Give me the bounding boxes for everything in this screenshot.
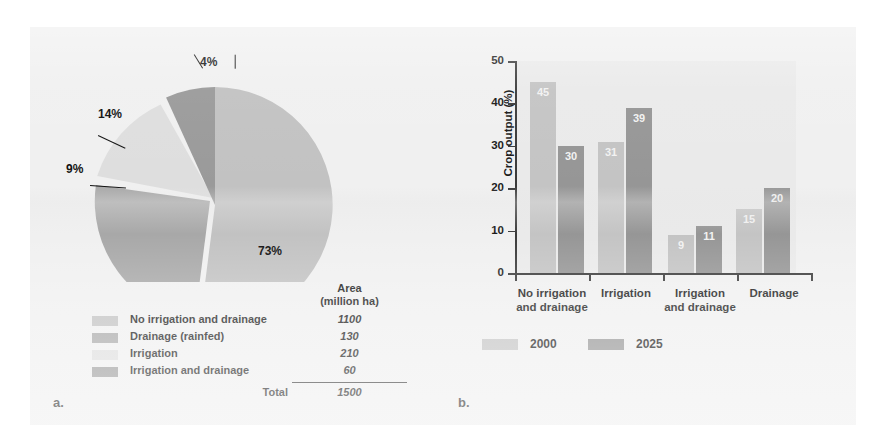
y-tick-label-50: 50 — [474, 54, 504, 66]
legend-label: Drainage (rainfed) — [130, 330, 224, 342]
pie-slice-drainage-rainfed — [95, 185, 210, 282]
legend-area-header-line1: Area — [337, 282, 361, 294]
y-tick-10 — [508, 231, 516, 233]
x-tick-3 — [737, 273, 739, 281]
panel-label-b: b. — [458, 395, 470, 410]
leader-line-4b — [234, 55, 235, 69]
bar-plot-area: 45 30 31 39 9 11 15 20 — [516, 61, 796, 273]
x-tick-1 — [589, 273, 591, 281]
legend-label: Irrigation and drainage — [130, 364, 249, 376]
x-category-drainage: Drainage — [714, 286, 834, 300]
bar-value: 20 — [764, 192, 790, 204]
legend-row: Drainage (rainfed) 130 — [92, 330, 422, 347]
pie-chart: 4% 14% 9% 73% — [50, 32, 410, 282]
legend-row: No irrigation and drainage 1100 — [92, 313, 422, 330]
bar-2000-no-irrigation-and-drainage: 45 — [530, 82, 556, 273]
legend-total-value: 1500 — [292, 386, 407, 398]
legend-total-row: Total 1500 — [92, 386, 422, 402]
bar-2000-drainage: 15 — [736, 209, 762, 273]
y-tick-label-20: 20 — [474, 181, 504, 193]
bar-2000-irrigation: 31 — [598, 142, 624, 273]
legend-label: No irrigation and drainage — [130, 313, 267, 325]
x-tick-4 — [811, 273, 813, 281]
legend-row: Irrigation 210 — [92, 347, 422, 364]
bar-value: 11 — [696, 230, 722, 242]
bar-value: 39 — [626, 112, 652, 124]
legend-total-divider — [292, 382, 407, 383]
legend-area-header: Area (million ha) — [292, 282, 407, 308]
bar-2000-irrigation-and-drainage: 9 — [668, 235, 694, 273]
legend-item-2025: 2025 — [588, 337, 708, 351]
pie-label-73-percent: 73% — [258, 244, 282, 258]
x-tick-0 — [515, 273, 517, 281]
x-category-line2: and drainage — [516, 301, 588, 313]
bar-2025-drainage: 20 — [764, 188, 790, 273]
y-tick-30 — [508, 146, 516, 148]
bar-value: 31 — [598, 146, 624, 158]
pie-label-4-percent: 4% — [200, 55, 217, 69]
legend-swatch-2000 — [482, 339, 518, 350]
panel-b-bar-chart: Crop output (%) 45 30 31 39 9 11 — [434, 27, 856, 425]
pie-label-9-percent: 9% — [66, 162, 83, 176]
legend-swatch-irrigation — [92, 350, 118, 360]
legend-label: Irrigation — [130, 347, 178, 359]
legend-item-2000: 2000 — [482, 337, 602, 351]
legend-label-2025: 2025 — [636, 337, 663, 351]
panel-label-a: a. — [53, 395, 64, 410]
x-tick-2 — [663, 273, 665, 281]
y-tick-50 — [508, 61, 516, 63]
x-category-line1: Drainage — [749, 287, 798, 299]
legend-value: 210 — [292, 347, 407, 359]
y-axis-line — [515, 61, 517, 275]
legend-swatch-no-irrigation-and-drainage — [92, 316, 118, 326]
legend-swatch-irrigation-and-drainage — [92, 367, 118, 377]
legend-swatch-drainage-rainfed — [92, 333, 118, 343]
bar-2025-irrigation: 39 — [626, 108, 652, 273]
legend-total-label: Total — [232, 386, 288, 398]
figure-panel: 4% 14% 9% 73% Area (million ha) No irrig… — [30, 27, 856, 425]
y-tick-label-30: 30 — [474, 139, 504, 151]
bar-2025-irrigation-and-drainage: 11 — [696, 226, 722, 273]
legend-area-header-line2: (million ha) — [320, 295, 379, 307]
y-tick-label-10: 10 — [474, 224, 504, 236]
panel-a-pie-chart: 4% 14% 9% 73% Area (million ha) No irrig… — [30, 27, 434, 425]
pie-slices — [50, 32, 410, 282]
legend-value: 130 — [292, 330, 407, 342]
legend-swatch-2025 — [588, 339, 624, 350]
legend-value: 1100 — [292, 313, 407, 325]
legend-rows: No irrigation and drainage 1100 Drainage… — [92, 313, 422, 381]
legend-row: Irrigation and drainage 60 — [92, 364, 422, 381]
y-tick-40 — [508, 103, 516, 105]
bar-value: 15 — [736, 213, 762, 225]
bar-value: 45 — [530, 86, 556, 98]
x-category-line2: and drainage — [664, 301, 736, 313]
bar-2025-no-irrigation-and-drainage: 30 — [558, 146, 584, 273]
bar-value: 9 — [668, 239, 694, 251]
pie-label-14-percent: 14% — [98, 107, 122, 121]
legend-label-2000: 2000 — [530, 337, 557, 351]
y-tick-label-40: 40 — [474, 96, 504, 108]
bar-value: 30 — [558, 150, 584, 162]
legend-value: 60 — [292, 364, 407, 376]
y-tick-20 — [508, 188, 516, 190]
y-tick-label-0: 0 — [474, 266, 504, 278]
